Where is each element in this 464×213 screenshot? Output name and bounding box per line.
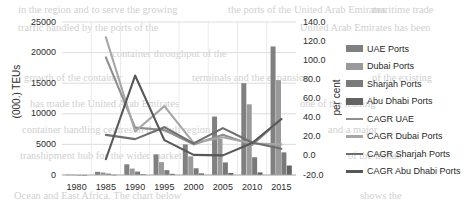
legend-item[interactable]: UAE Ports [346,40,464,58]
line-series [106,57,282,144]
legend-item[interactable]: Dubai Ports [346,58,464,76]
line-series [106,127,282,149]
bar [154,154,159,175]
bar [223,162,228,175]
bar [281,152,286,175]
legend-line-icon [346,135,363,138]
bar [271,46,276,175]
legend-item-label: CAGR Dubai Ports [367,131,443,141]
bar [217,139,222,175]
legend-swatch-icon [346,80,363,87]
bar [164,170,169,175]
legend-line-icon [346,118,363,121]
bar [212,117,217,175]
line-series [106,37,282,144]
bar [130,169,135,175]
legend-item-label: CAGR Sharjah Ports [367,149,450,159]
bar [276,80,281,175]
chart-legend: UAE PortsDubai PortsSharjah PortsAbu Dha… [346,40,464,180]
bar [135,172,140,175]
legend-item-label: Abu Dhabi Ports [367,96,433,106]
legend-item-label: Dubai Ports [367,61,414,71]
legend-item-label: CAGR UAE [367,114,414,124]
legend-item-label: CAGR Abu Dhabi Ports [367,166,461,176]
bar [188,156,193,175]
legend-swatch-icon [346,45,363,52]
bar [252,157,257,175]
chart-root: in the region and to serve the growingth… [0,0,464,213]
legend-item[interactable]: CAGR Dubai Ports [346,128,464,146]
legend-line-icon [346,153,363,156]
legend-item[interactable]: Sharjah Ports [346,75,464,93]
legend-item[interactable]: CAGR Sharjah Ports [346,145,464,163]
bar [159,162,164,175]
line-series [106,76,282,160]
legend-item[interactable]: CAGR Abu Dhabi Ports [346,163,464,181]
bar [124,164,129,175]
legend-swatch-icon [346,63,363,70]
bar-series [66,46,276,175]
bar-series [71,80,281,175]
bar [241,83,246,175]
bar [95,172,100,175]
bar [194,168,199,175]
legend-item[interactable]: CAGR UAE [346,110,464,128]
legend-item-label: UAE Ports [367,44,409,54]
bar [287,166,292,175]
legend-line-icon [346,170,363,173]
legend-item-label: Sharjah Ports [367,79,422,89]
legend-item[interactable]: Abu Dhabi Ports [346,93,464,111]
legend-swatch-icon [346,98,363,105]
